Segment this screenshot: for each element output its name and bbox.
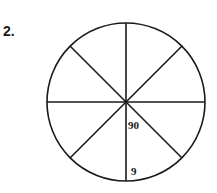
radius-label: 9	[131, 165, 137, 177]
circle-diagram: 90 9	[0, 0, 217, 193]
angle-label: 90	[128, 119, 140, 131]
